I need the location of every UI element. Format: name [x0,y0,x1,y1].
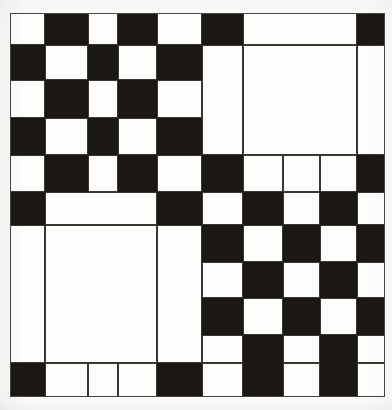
block-left-tall-white-strip [10,225,45,363]
cell-r3-c0-black [10,118,45,155]
block-mid-left-white-bar [45,192,157,225]
cell-r0-c4-white [157,13,202,45]
cell-r3-c2-black [88,118,118,155]
block-top-right-white-banner [243,13,357,45]
checkerboard-pattern [0,0,392,410]
cell-r8-c7-black [283,298,320,335]
cell-r10-c6-black [243,363,283,397]
cell-r7-c6-black [243,262,283,298]
cell-r4-c5-black [202,155,243,192]
cell-r0-c9-black [357,13,385,45]
cell-r0-c3-black [118,13,157,45]
cell-r4-c3-black [118,155,157,192]
cell-r0-c2-white [88,13,118,45]
cell-r10-c7-white [283,363,320,397]
cell-r0-c0-white [10,13,45,45]
block-col4-tall-white-strip [157,225,202,363]
cell-r1-c4-black [157,45,202,80]
cell-r5-c4-black [157,192,202,225]
cell-r6-c6-white [243,225,283,262]
cell-r9-c6-black [243,335,283,363]
cell-r4-c9-black [357,155,385,192]
cell-r10-c9-white [357,363,385,397]
cell-r5-c8-black [320,192,357,225]
cell-r2-c0-white [10,80,45,118]
cell-r6-c9-black [357,225,385,262]
cell-r5-c5-white [202,192,243,225]
cell-r4-c2-white [88,155,118,192]
cell-r10-c1-white [45,363,88,397]
block-top-right-large-white-square [243,45,357,155]
cell-r3-c1-white [45,118,88,155]
cell-r1-c1-white [45,45,88,80]
cell-r5-c7-white [283,192,320,225]
cell-r4-c7-white [283,155,320,192]
cell-r2-c1-black [45,80,88,118]
image-canvas [0,0,392,410]
cell-r10-c8-black [320,363,357,397]
cell-r10-c4-black [157,363,202,397]
block-bottom-left-large-white-square [45,225,157,363]
cell-r4-c1-black [45,155,88,192]
cell-r9-c5-white [202,335,243,363]
cell-r3-c4-black [157,118,202,155]
cell-r7-c9-white [357,262,385,298]
cell-r7-c7-white [283,262,320,298]
cell-r4-c6-white [243,155,283,192]
cell-r2-c3-black [118,80,157,118]
cell-r4-c8-white [320,155,357,192]
cell-r8-c9-black [357,298,385,335]
cell-r0-c1-black [45,13,88,45]
cell-r10-c5-white [202,363,243,397]
cell-r8-c8-white [320,298,357,335]
block-col9-tall-white-strip [357,45,385,155]
cell-r9-c9-white [357,335,385,363]
cell-r1-c0-black [10,45,45,80]
cell-r10-c3-white [118,363,157,397]
cell-r6-c8-white [320,225,357,262]
cell-r4-c4-white [157,155,202,192]
cell-r6-c7-black [283,225,320,262]
cell-r9-c8-black [320,335,357,363]
cell-r3-c3-white [118,118,157,155]
cell-r5-c9-white [357,192,385,225]
cell-r2-c4-white [157,80,202,118]
cell-r6-c5-black [202,225,243,262]
cell-r1-c3-white [118,45,157,80]
cell-r10-c0-black [10,363,45,397]
cell-r0-c5-black [202,13,243,45]
cell-r8-c5-black [202,298,243,335]
cell-r4-c0-white [10,155,45,192]
cell-r10-c2-white [88,363,118,397]
block-col5-tall-white-strip [202,45,243,155]
cell-r5-c0-black [10,192,45,225]
cell-r1-c2-black [88,45,118,80]
cell-r8-c6-white [243,298,283,335]
cell-r9-c7-white [283,335,320,363]
cell-r7-c8-black [320,262,357,298]
cell-r2-c2-white [88,80,118,118]
cell-r5-c6-black [243,192,283,225]
cell-r7-c5-white [202,262,243,298]
